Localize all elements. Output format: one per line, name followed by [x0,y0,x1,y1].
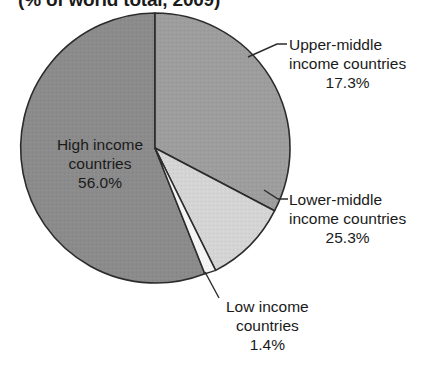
slice-label-upper-middle-line1: Upper-middle [289,35,406,54]
slice-value-upper-middle: 17.3% [289,73,406,92]
slice-value-low-income: 1.4% [226,335,309,354]
slice-label-lower-middle-line2: income countries [289,209,406,228]
slice-label-lower-middle-line1: Lower-middle [289,190,406,209]
slice-label-low-income: Low income countries 1.4% [226,297,309,354]
slice-label-high-income-line1: High income [26,135,174,154]
slice-value-lower-middle: 25.3% [289,228,406,247]
slice-value-high-income: 56.0% [26,173,174,192]
leader-line-low-income [205,272,219,298]
slice-label-upper-middle-line2: income countries [289,54,406,73]
slice-label-lower-middle: Lower-middle income countries 25.3% [289,190,406,247]
slice-label-low-income-line1: Low income [226,297,309,316]
slice-label-high-income: High income countries 56.0% [26,135,174,192]
slice-label-upper-middle: Upper-middle income countries 17.3% [289,35,406,92]
slice-label-low-income-line2: countries [226,316,309,335]
slice-label-high-income-line2: countries [26,154,174,173]
chart-page: (% of world total, 2009) [0,0,444,366]
leader-line-upper-middle [248,44,287,57]
